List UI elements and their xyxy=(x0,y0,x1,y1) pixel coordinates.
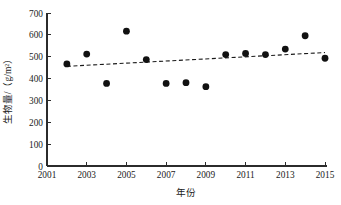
x-tick-label-2013: 2013 xyxy=(276,170,295,180)
y-tick-label-500: 500 xyxy=(29,52,43,62)
data-point xyxy=(202,83,209,90)
x-tick-label-2005: 2005 xyxy=(117,170,136,180)
y-tick-label-600: 600 xyxy=(29,30,43,40)
data-point xyxy=(83,51,90,58)
x-tick-label-2001: 2001 xyxy=(38,170,57,180)
y-tick-label-400: 400 xyxy=(29,74,43,84)
y-tick-label-300: 300 xyxy=(29,96,43,106)
data-point xyxy=(262,51,269,58)
data-point xyxy=(322,55,329,62)
data-point xyxy=(183,79,190,86)
x-tick-label-2009: 2009 xyxy=(197,170,216,180)
data-point xyxy=(63,61,70,68)
y-axis-title: 生物量/（g/m²） xyxy=(2,54,13,124)
data-point xyxy=(143,56,150,63)
x-axis-title: 年份 xyxy=(176,187,196,198)
biomass-year-scatter-chart: 700 600 500 400 300 200 100 0 2001 2003 … xyxy=(0,0,341,205)
x-tick-label-2003: 2003 xyxy=(77,170,96,180)
data-point xyxy=(123,28,130,35)
data-point xyxy=(163,80,170,87)
data-point xyxy=(222,51,229,58)
data-point xyxy=(302,32,309,39)
data-point xyxy=(242,50,249,57)
y-tick-label-200: 200 xyxy=(29,118,43,128)
data-point xyxy=(282,46,289,53)
x-tick-label-2015: 2015 xyxy=(316,170,335,180)
x-tick-label-2007: 2007 xyxy=(157,170,176,180)
x-tick-label-2011: 2011 xyxy=(236,170,255,180)
y-tick-label-700: 700 xyxy=(29,9,43,19)
data-point xyxy=(103,80,110,87)
y-tick-label-100: 100 xyxy=(29,140,43,150)
chart-figure: 700 600 500 400 300 200 100 0 2001 2003 … xyxy=(0,0,341,205)
